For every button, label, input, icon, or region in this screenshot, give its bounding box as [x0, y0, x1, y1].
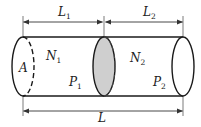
right-end-ellipse	[172, 37, 194, 96]
label-area: A	[18, 61, 28, 75]
label-n2: N2	[129, 51, 146, 67]
label-n1: N1	[45, 49, 61, 65]
label-p1: P1	[68, 75, 82, 91]
cylinder-diagram: L1 L2 L A N1 P1 N2 P2	[0, 0, 201, 127]
label-p2: P2	[152, 75, 166, 91]
label-l1: L1	[57, 5, 71, 21]
label-l2: L2	[142, 5, 156, 21]
shaded-cross-section	[93, 37, 115, 96]
label-l: L	[97, 111, 106, 125]
